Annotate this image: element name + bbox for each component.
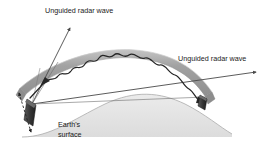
radar-duct-diagram: Unguided radar wave Unguided radar wave … [0, 0, 266, 156]
label-earth-surface-line2: surface [58, 130, 82, 139]
label-unguided-wave-left: Unguided radar wave [45, 6, 113, 15]
transmitter-antenna [24, 99, 36, 126]
diagram-canvas: Unguided radar wave Unguided radar wave … [0, 0, 266, 156]
label-earth-surface-line1: Earth's [58, 120, 81, 129]
label-unguided-wave-right: Unguided radar wave [178, 54, 246, 63]
